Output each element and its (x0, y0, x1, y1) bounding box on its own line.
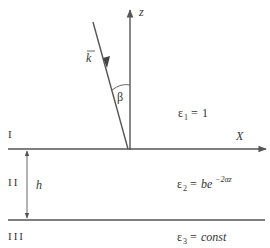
layered-medium-diagram: z X k β h I II III ε 1 = 1 ε 2 = be −2αz… (0, 0, 270, 248)
eps3-value: const (201, 230, 227, 244)
eps1-value: 1 (202, 106, 208, 120)
wave-ray (93, 22, 128, 149)
eps1-symbol: ε (178, 106, 183, 120)
region-label-I: I (8, 128, 14, 140)
eps3-symbol: ε (177, 230, 182, 244)
angle-beta-label: β (117, 90, 123, 104)
epsilon-2-equation: ε 2 = be −2αz (177, 175, 233, 193)
eps2-equals: = (190, 177, 197, 191)
epsilon-3-equation: ε 3 = const (177, 230, 227, 246)
x-axis-label: X (235, 129, 244, 143)
eps2-base: be (201, 177, 213, 191)
eps3-index: 3 (183, 237, 187, 246)
region-label-III: III (8, 230, 25, 242)
eps2-index: 2 (183, 184, 187, 193)
z-axis-label: z (138, 5, 144, 19)
eps2-exponent: −2αz (215, 175, 233, 184)
region-label-II: II (8, 176, 19, 188)
eps2-symbol: ε (177, 177, 182, 191)
thickness-label: h (36, 178, 42, 192)
eps3-equals: = (190, 230, 197, 244)
epsilon-1-equation: ε 1 = 1 (178, 106, 208, 122)
eps1-equals: = (191, 106, 198, 120)
eps1-index: 1 (184, 113, 188, 122)
wave-vector-label: k (86, 51, 92, 65)
